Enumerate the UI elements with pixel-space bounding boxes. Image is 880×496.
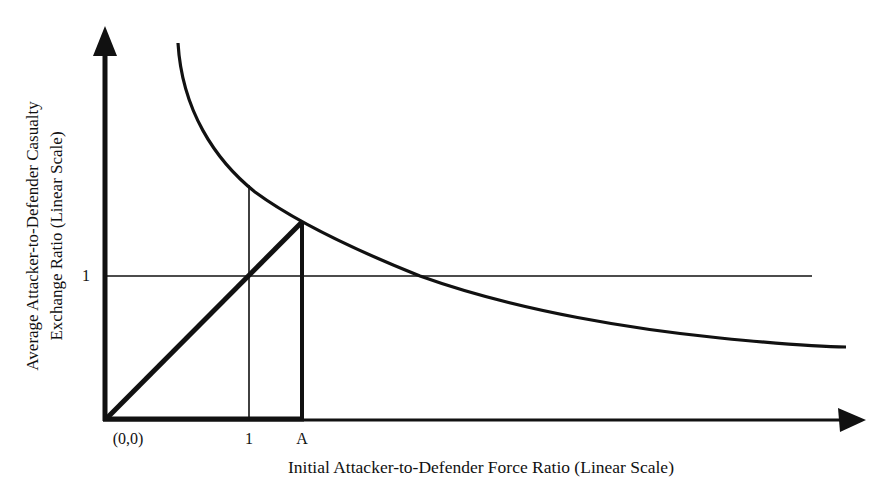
diagonal-line bbox=[106, 222, 302, 419]
y-axis-title-line1: Average Attacker-to-Defender Casualty bbox=[23, 101, 42, 371]
x-tick-one-label: 1 bbox=[245, 430, 253, 447]
casualty-exchange-curve bbox=[178, 43, 846, 347]
y-axis-arrowhead-icon bbox=[93, 26, 117, 56]
y-axis-title-line2: Exchange Ratio (Linear Scale) bbox=[47, 131, 66, 340]
origin-label: (0,0) bbox=[113, 430, 144, 448]
x-axis-title: Initial Attacker-to-Defender Force Ratio… bbox=[288, 457, 674, 477]
x-tick-a-label: A bbox=[296, 430, 308, 447]
force-ratio-diagram: (0,0) 1 A 1 Initial Attacker-to-Defender… bbox=[0, 0, 880, 496]
y-tick-one-label: 1 bbox=[82, 267, 90, 284]
x-axis-arrowhead-icon bbox=[838, 408, 866, 432]
